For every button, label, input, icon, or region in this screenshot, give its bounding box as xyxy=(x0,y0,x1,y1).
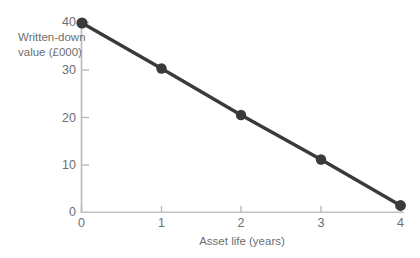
y-tick-label-40: 40 xyxy=(62,15,76,29)
y-axis-caption-line1: Written-down xyxy=(18,31,86,43)
y-tick-label-20: 20 xyxy=(62,111,76,125)
data-point-marker xyxy=(316,154,326,164)
y-axis-caption-line2: value (£000) xyxy=(18,46,82,58)
line-chart-canvas: 40 30 20 10 0 0 1 2 3 4 Asset life (year… xyxy=(0,0,420,258)
x-tick-label-1: 1 xyxy=(158,216,165,230)
data-point-marker xyxy=(76,17,87,28)
chart-figure: 40 30 20 10 0 0 1 2 3 4 Asset life (year… xyxy=(0,0,420,258)
x-tick-label-2: 2 xyxy=(238,216,245,230)
y-tick-label-10: 10 xyxy=(62,158,76,172)
data-point-marker xyxy=(156,63,166,73)
y-tick-label-0: 0 xyxy=(69,205,76,219)
x-tick-label-4: 4 xyxy=(397,216,404,230)
data-point-marker xyxy=(236,110,246,120)
x-axis-caption: Asset life (years) xyxy=(199,235,285,247)
x-tick-label-0: 0 xyxy=(78,216,85,230)
x-tick-label-3: 3 xyxy=(318,216,325,230)
y-tick-label-30: 30 xyxy=(62,63,76,77)
data-point-marker xyxy=(395,200,406,211)
